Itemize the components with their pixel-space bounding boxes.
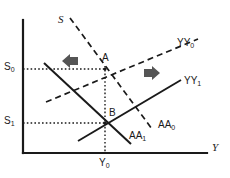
right-shift-arrow [144,66,160,80]
arrow-left-icon [62,54,78,68]
curve-label-yy0: YY0 [177,38,194,48]
curve-label-yy0-text: YY [177,37,190,48]
point-label-b: B [109,108,116,118]
diagram-canvas [0,0,230,178]
curve-label-yy1-text: YY [184,75,197,86]
curve-label-yy0-sub: 0 [190,42,194,49]
curve-yy0 [46,39,198,102]
curve-label-aa0-text: AA [158,119,171,130]
point-marker-b [103,121,107,125]
point-marker-a [103,67,106,70]
curve-aa1 [44,63,131,144]
tick-label-s0-text: S [4,61,11,72]
tick-label-s1-text: S [4,115,11,126]
curve-label-yy1-sub: 1 [197,80,201,87]
tick-label-y0: Y0 [99,158,110,168]
tick-label-y0-text: Y [99,157,106,168]
point-label-a: A [102,53,109,63]
curve-label-aa1: AA1 [129,131,146,141]
tick-label-y0-sub: 0 [106,162,110,169]
y-axis-label: S [58,14,64,25]
curve-label-aa0-sub: 0 [171,124,175,131]
tick-label-s1: S1 [4,116,15,126]
curve-label-aa1-text: AA [129,130,142,141]
tick-label-s0: S0 [4,62,15,72]
arrow-right-icon [144,66,160,80]
x-axis-label: Y [212,142,218,153]
tick-label-s0-sub: 0 [11,66,15,73]
curve-label-yy1: YY1 [184,76,201,86]
tick-label-s1-sub: 1 [11,120,15,127]
curve-label-aa0: AA0 [158,120,175,130]
left-shift-arrow [62,54,78,68]
curve-label-aa1-sub: 1 [142,135,146,142]
economics-diagram: S Y S0 S1 Y0 A B YY0 YY1 AA0 AA1 [0,0,230,178]
